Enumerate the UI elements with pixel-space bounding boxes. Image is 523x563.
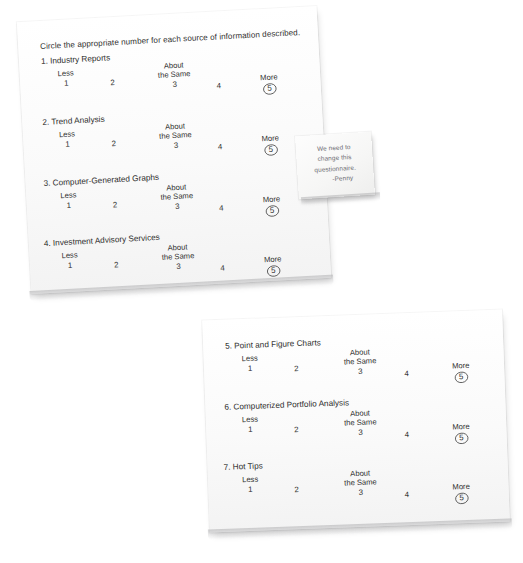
scale-value-2: 2: [111, 139, 116, 149]
scale-value-2: 2: [110, 78, 115, 88]
scale-option-same-5[interactable]: About the Same 3: [343, 348, 377, 377]
sticky-note-line-1: We need to: [317, 143, 351, 152]
rating-scale-6[interactable]: Less 1 2 About the Same 3 4: [206, 405, 507, 450]
scale-label-the-same: the Same: [160, 192, 193, 203]
scale-option-more-7[interactable]: More 5: [452, 483, 470, 504]
scale-label-less: Less: [242, 476, 258, 486]
scale-value-1: 1: [61, 201, 78, 211]
rating-scale-7[interactable]: Less 1 2 About the Same 3 4: [208, 464, 509, 509]
circled-answer-3[interactable]: 5: [267, 204, 277, 216]
scale-label-the-same: the Same: [344, 478, 377, 488]
scale-option-4-4[interactable]: 4: [220, 263, 225, 273]
question-title-6: 6. Computerized Portfolio Analysis: [224, 398, 349, 412]
scale-value-5: 5: [267, 84, 272, 94]
scale-value-4: 4: [404, 369, 409, 378]
scanned-documents-scene: Circle the appropriate number for each s…: [0, 0, 523, 563]
scale-option-2-2[interactable]: 2: [111, 139, 116, 149]
scale-option-2-6[interactable]: 2: [294, 425, 299, 434]
scale-option-4-6[interactable]: 4: [404, 430, 409, 439]
scale-label-less: Less: [58, 69, 75, 79]
scale-option-same-2[interactable]: About the Same 3: [159, 122, 193, 151]
scale-value-4: 4: [218, 142, 223, 152]
scale-value-5: 5: [270, 206, 275, 216]
scale-value-2: 2: [294, 425, 299, 434]
scale-value-5: 5: [459, 434, 464, 443]
sheet-top-content: Circle the appropriate number for each s…: [17, 6, 331, 294]
scale-option-same-6[interactable]: About the Same 3: [344, 409, 378, 438]
scale-value-1: 1: [58, 79, 75, 89]
scale-value-4: 4: [216, 81, 221, 91]
scale-value-1: 1: [242, 364, 258, 374]
scale-value-2: 2: [294, 364, 299, 373]
scale-option-less-4[interactable]: Less 1: [61, 251, 78, 271]
circled-answer-1[interactable]: 5: [264, 82, 274, 94]
question-title-5: 5. Point and Figure Charts: [225, 338, 321, 350]
scale-label-less: Less: [59, 130, 76, 140]
circled-answer-2[interactable]: 5: [266, 143, 276, 155]
scale-label-less: Less: [61, 251, 78, 261]
scale-value-5: 5: [268, 145, 273, 155]
scale-option-2-4[interactable]: 2: [114, 260, 119, 270]
question-block-2: 2. Trend Analysis Less 1 2 About the Sam…: [22, 103, 322, 119]
sticky-note-line-2: change this: [317, 153, 351, 162]
scale-option-less-1[interactable]: Less 1: [58, 69, 75, 89]
scale-option-same-1[interactable]: About the Same 3: [157, 61, 191, 90]
scale-option-same-3[interactable]: About the Same 3: [160, 183, 194, 212]
scale-value-4: 4: [404, 430, 409, 439]
scale-value-1: 1: [242, 425, 258, 435]
scale-label-the-same: the Same: [344, 357, 377, 367]
scale-option-4-5[interactable]: 4: [404, 369, 409, 378]
scale-option-more-3[interactable]: More 5: [263, 195, 281, 217]
scale-option-2-3[interactable]: 2: [113, 200, 118, 210]
questionnaire-sheet-bottom[interactable]: 5. Point and Figure Charts Less 1 2 Abou…: [202, 310, 510, 533]
circled-answer-6[interactable]: 5: [456, 432, 466, 444]
circled-answer-4[interactable]: 5: [268, 265, 278, 277]
scale-option-4-1[interactable]: 4: [216, 81, 221, 91]
scale-option-2-7[interactable]: 2: [294, 485, 299, 494]
scale-option-same-7[interactable]: About the Same 3: [344, 469, 378, 498]
question-block-5: 5. Point and Figure Charts Less 1 2 Abou…: [203, 332, 503, 343]
sticky-note[interactable]: We need to change this questionnaire. -P…: [295, 132, 375, 200]
scale-label-less: Less: [242, 416, 258, 426]
questionnaire-sheet-top[interactable]: Circle the appropriate number for each s…: [17, 6, 331, 294]
scale-option-less-2[interactable]: Less 1: [59, 130, 76, 150]
circled-answer-7[interactable]: 5: [457, 492, 467, 504]
sheet-bottom-content: 5. Point and Figure Charts Less 1 2 Abou…: [202, 310, 510, 533]
scale-label-the-same: the Same: [158, 70, 191, 81]
scale-value-1: 1: [59, 140, 76, 150]
scale-value-1: 1: [242, 485, 258, 495]
scale-value-3: 3: [162, 261, 195, 272]
scale-option-less-3[interactable]: Less 1: [60, 191, 77, 211]
scale-option-more-1[interactable]: More 5: [260, 73, 278, 95]
scale-label-less: Less: [242, 355, 258, 365]
scale-option-4-2[interactable]: 4: [218, 142, 223, 152]
scale-option-less-5[interactable]: Less 1: [242, 355, 259, 374]
sticky-note-line-3: questionnaire.: [314, 163, 356, 173]
scale-label-less: Less: [60, 191, 77, 201]
question-title-2: 2. Trend Analysis: [42, 115, 105, 127]
scale-option-more-6[interactable]: More 5: [452, 423, 470, 444]
scale-value-2: 2: [294, 485, 299, 494]
scale-option-2-5[interactable]: 2: [294, 364, 299, 373]
scale-value-2: 2: [114, 260, 119, 270]
scale-value-2: 2: [113, 200, 118, 210]
scale-value-5: 5: [459, 494, 464, 503]
scale-value-3: 3: [344, 428, 377, 439]
instruction-text: Circle the appropriate number for each s…: [40, 28, 300, 51]
rating-scale-5[interactable]: Less 1 2 About the Same 3 4: [203, 344, 504, 389]
circled-answer-5[interactable]: 5: [456, 371, 466, 383]
scale-option-same-4[interactable]: About the Same 3: [161, 243, 195, 272]
scale-option-less-6[interactable]: Less 1: [242, 416, 259, 435]
scale-option-4-3[interactable]: 4: [219, 203, 224, 213]
scale-option-more-5[interactable]: More 5: [452, 362, 470, 383]
scale-option-more-2[interactable]: More 5: [261, 134, 279, 156]
question-title-7: 7. Hot Tips: [223, 461, 262, 471]
scale-option-less-7[interactable]: Less 1: [242, 476, 259, 495]
scale-option-4-7[interactable]: 4: [405, 490, 410, 499]
sticky-note-signature: -Penny: [298, 172, 375, 187]
scale-option-2-1[interactable]: 2: [110, 78, 115, 88]
scale-label-the-same: the Same: [162, 252, 195, 263]
scale-option-more-4[interactable]: More 5: [264, 255, 282, 277]
scale-value-5: 5: [459, 372, 464, 381]
question-block-6: 6. Computerized Portfolio Analysis Less …: [205, 393, 505, 404]
